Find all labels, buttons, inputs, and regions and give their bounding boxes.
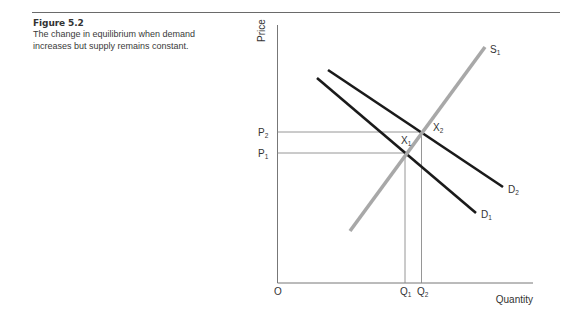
q2-label: Q2 xyxy=(417,286,429,298)
q1-label: Q1 xyxy=(400,286,412,298)
demand-curve-d2 xyxy=(328,70,503,187)
s1-label: S1 xyxy=(490,44,501,56)
origin-label: O xyxy=(274,286,282,297)
y-axis-label: Price xyxy=(256,19,267,42)
x-axis-label: Quantity xyxy=(496,294,533,305)
p1-label: P1 xyxy=(258,148,269,160)
d1-label: D1 xyxy=(481,209,492,221)
x1-label: X1 xyxy=(401,135,412,147)
p2-label: P2 xyxy=(258,127,269,139)
d2-label: D2 xyxy=(508,184,519,196)
x2-label: X2 xyxy=(433,122,444,134)
demand-curve-d1 xyxy=(317,78,476,213)
supply-demand-chart: Price Quantity O P2 P1 Q1 Q2 X1 X2 S1 D2… xyxy=(0,0,568,331)
